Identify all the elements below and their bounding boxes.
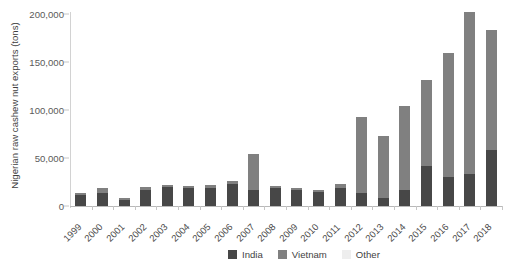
y-tick-mark	[64, 158, 69, 159]
bar-segment-india	[335, 188, 346, 206]
y-tick-label: 150,000	[0, 57, 64, 68]
y-tick-label: 0	[0, 201, 64, 212]
x-tick-label: 2012	[342, 221, 365, 244]
bar-segment-india	[140, 190, 151, 206]
chart-figure: Nigerian raw cashew nut exports (tons) 0…	[0, 0, 508, 269]
x-tick-label: 2018	[471, 221, 494, 244]
bar-2018	[486, 30, 497, 206]
bar-segment-india	[270, 188, 281, 206]
bar-segment-india	[119, 200, 130, 206]
bar-segment-india	[443, 177, 454, 206]
x-tick-mark	[200, 206, 201, 210]
legend-label: India	[242, 249, 263, 260]
y-tick-mark	[64, 206, 69, 207]
bar-segment-india	[97, 193, 108, 206]
bar-2006	[227, 181, 238, 206]
x-tick-mark	[221, 206, 222, 210]
x-tick-label: 2007	[234, 221, 257, 244]
x-tick-mark	[264, 206, 265, 210]
x-tick-mark	[372, 206, 373, 210]
x-tick-label: 1999	[61, 221, 84, 244]
bar-2004	[183, 186, 194, 206]
bar-2009	[291, 188, 302, 206]
bar-segment-india	[227, 184, 238, 206]
x-tick-label: 2010	[298, 221, 321, 244]
x-tick-mark	[394, 206, 395, 210]
y-tick-mark	[64, 110, 69, 111]
x-tick-label: 2016	[428, 221, 451, 244]
bar-2012	[356, 117, 367, 206]
x-tick-mark	[178, 206, 179, 210]
bar-segment-vietnam	[399, 106, 410, 190]
x-tick-label: 2003	[147, 221, 170, 244]
x-tick-mark	[329, 206, 330, 210]
x-tick-label: 2011	[320, 222, 342, 244]
bar-segment-vietnam	[464, 12, 475, 174]
legend-label: Vietnam	[292, 249, 327, 260]
x-tick-label: 2014	[385, 221, 408, 244]
bar-2008	[270, 186, 281, 206]
bar-segment-vietnam	[248, 154, 259, 190]
x-tick-mark	[92, 206, 93, 210]
legend-item-india[interactable]: India	[228, 249, 263, 260]
x-tick-label: 2002	[126, 221, 149, 244]
x-tick-label: 2015	[406, 221, 429, 244]
bar-2013	[378, 136, 389, 206]
x-tick-mark	[113, 206, 114, 210]
x-tick-mark	[480, 206, 481, 210]
x-tick-mark	[502, 206, 503, 210]
plot-area	[70, 14, 502, 206]
bar-segment-vietnam	[486, 30, 497, 150]
x-tick-label: 2005	[190, 221, 213, 244]
y-tick-label: 50,000	[0, 153, 64, 164]
bar-segment-vietnam	[356, 117, 367, 193]
bar-2011	[335, 184, 346, 206]
bar-segment-india	[248, 190, 259, 206]
bar-segment-india	[205, 188, 216, 206]
legend-item-other[interactable]: Other	[342, 249, 380, 260]
bar-segment-india	[162, 187, 173, 206]
x-tick-mark	[308, 206, 309, 210]
x-tick-label: 2001	[104, 221, 127, 244]
x-tick-mark	[459, 206, 460, 210]
chart-legend: IndiaVietnamOther	[228, 249, 395, 260]
bar-2014	[399, 106, 410, 206]
bar-2017	[464, 12, 475, 206]
legend-swatch-icon	[278, 250, 287, 259]
bar-2001	[119, 198, 130, 206]
y-tick-label: 200,000	[0, 9, 64, 20]
x-tick-label: 2009	[277, 221, 300, 244]
x-tick-mark	[351, 206, 352, 210]
bar-2007	[248, 154, 259, 206]
y-tick-mark	[64, 14, 69, 15]
x-tick-label: 2006	[212, 221, 235, 244]
bar-2016	[443, 53, 454, 206]
bar-segment-india	[421, 166, 432, 206]
legend-item-vietnam[interactable]: Vietnam	[278, 249, 327, 260]
x-tick-mark	[286, 206, 287, 210]
x-tick-label: 2000	[82, 221, 105, 244]
bar-segment-vietnam	[443, 53, 454, 177]
legend-swatch-icon	[342, 250, 351, 259]
x-tick-label: 2017	[450, 221, 473, 244]
bar-segment-india	[356, 193, 367, 206]
x-tick-label: 2008	[255, 221, 278, 244]
legend-label: Other	[356, 249, 380, 260]
bar-segment-india	[75, 195, 86, 206]
bar-segment-india	[399, 190, 410, 206]
bar-1999	[75, 193, 86, 206]
x-tick-label: 2013	[363, 221, 386, 244]
x-tick-mark	[135, 206, 136, 210]
bar-segment-india	[313, 192, 324, 206]
bar-segment-india	[291, 190, 302, 206]
y-tick-label: 100,000	[0, 105, 64, 116]
bar-segment-india	[378, 198, 389, 206]
bar-segment-vietnam	[421, 80, 432, 165]
bar-2005	[205, 185, 216, 206]
bar-segment-vietnam	[378, 136, 389, 198]
bar-segment-india	[486, 150, 497, 206]
y-tick-mark	[64, 62, 69, 63]
x-tick-label: 2004	[169, 221, 192, 244]
bar-segment-india	[464, 174, 475, 206]
x-tick-mark	[437, 206, 438, 210]
